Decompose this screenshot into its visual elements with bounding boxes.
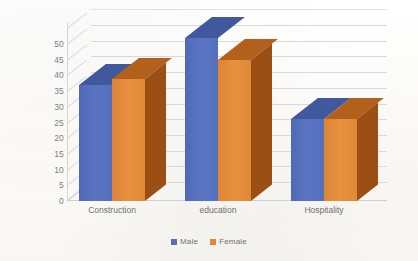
gridline-depth-connector bbox=[67, 29, 87, 45]
y-tick-label: 0 bbox=[59, 197, 64, 206]
bar-front-face bbox=[324, 119, 357, 201]
bar-side-face bbox=[357, 103, 378, 201]
legend-swatch-icon bbox=[210, 239, 216, 245]
legend-swatch-icon bbox=[171, 239, 177, 245]
y-tick-label: 10 bbox=[54, 166, 64, 175]
y-tick-label: 35 bbox=[54, 87, 64, 96]
chart-legend: MaleFemale bbox=[0, 238, 418, 246]
bar-male-education bbox=[185, 38, 218, 201]
bar-male-hospitality bbox=[291, 119, 324, 201]
bar-female-construction bbox=[112, 79, 145, 201]
legend-label: Female bbox=[219, 238, 247, 246]
bar-front-face bbox=[185, 38, 218, 201]
y-tick-label: 20 bbox=[54, 134, 64, 143]
legend-item-female[interactable]: Female bbox=[210, 238, 247, 246]
bar-series-container bbox=[67, 44, 385, 201]
y-tick-label: 30 bbox=[54, 103, 64, 112]
legend-label: Male bbox=[180, 238, 198, 246]
gridline bbox=[91, 9, 387, 10]
x-axis-category-labels: ConstructioneducationHospitality bbox=[0, 206, 418, 224]
bar-front-face bbox=[79, 85, 112, 201]
y-tick-label: 50 bbox=[54, 40, 64, 49]
y-tick-label: 45 bbox=[54, 56, 64, 65]
bar-front-face bbox=[291, 119, 324, 201]
bar-chart: 50454035302520151050 Constructioneducati… bbox=[0, 0, 418, 261]
bar-side-face bbox=[145, 62, 166, 201]
bar-female-education bbox=[218, 60, 251, 201]
x-category-label: Hospitality bbox=[271, 206, 377, 215]
bar-female-hospitality bbox=[324, 119, 357, 201]
y-tick-label: 5 bbox=[59, 181, 64, 190]
gridline-depth-connector bbox=[67, 13, 87, 29]
y-tick-label: 40 bbox=[54, 71, 64, 80]
bar-front-face bbox=[218, 60, 251, 201]
bar-front-face bbox=[112, 79, 145, 201]
y-tick-label: 25 bbox=[54, 119, 64, 128]
x-category-label: Construction bbox=[59, 206, 165, 215]
plot-area bbox=[67, 44, 385, 201]
y-tick-label: 15 bbox=[54, 150, 64, 159]
bar-side-face bbox=[251, 43, 272, 201]
bar-male-construction bbox=[79, 85, 112, 201]
x-category-label: education bbox=[165, 206, 271, 215]
gridline bbox=[91, 41, 387, 42]
gridline bbox=[91, 25, 387, 26]
legend-item-male[interactable]: Male bbox=[171, 238, 198, 246]
